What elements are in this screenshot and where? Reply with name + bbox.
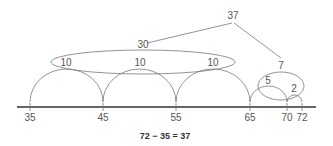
tick-label-65: 65 — [244, 112, 256, 123]
tick-label-70: 70 — [281, 112, 293, 123]
group-label-30: 30 — [137, 39, 149, 50]
jump-label-4: 5 — [265, 75, 271, 86]
jump-label-1: 10 — [60, 57, 72, 68]
jump-arc-55-65 — [176, 69, 250, 102]
jump-label-5: 2 — [291, 83, 297, 94]
total-label: 37 — [227, 10, 239, 21]
jump-label-3: 10 — [207, 57, 219, 68]
connector-30-37 — [147, 23, 232, 43]
jump-arc-70-72 — [287, 95, 302, 102]
tick-label-45: 45 — [97, 112, 109, 123]
equation: 72 − 35 = 37 — [140, 131, 191, 141]
jump-label-2: 10 — [134, 57, 146, 68]
tick-label-72: 72 — [296, 112, 308, 123]
tick-label-35: 35 — [24, 112, 36, 123]
connector-7-37 — [234, 23, 281, 58]
jump-arc-35-45 — [30, 69, 103, 102]
group-label-7: 7 — [278, 60, 284, 71]
tick-label-55: 55 — [170, 112, 182, 123]
number-line-diagram: 10 10 10 5 2 30 7 37 35 45 55 65 70 72 7… — [0, 0, 333, 146]
